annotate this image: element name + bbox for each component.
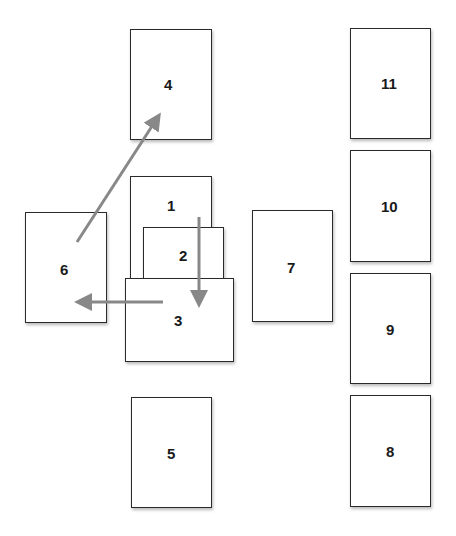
- card-9[interactable]: 9: [350, 273, 431, 384]
- card-3[interactable]: 3: [125, 278, 234, 362]
- card-label: 11: [381, 75, 397, 92]
- card-label: 8: [386, 443, 394, 460]
- card-label: 2: [179, 247, 187, 264]
- card-label: 7: [287, 259, 295, 276]
- card-6[interactable]: 6: [25, 212, 107, 323]
- card-label: 9: [386, 321, 394, 338]
- card-5[interactable]: 5: [131, 397, 212, 508]
- card-10[interactable]: 10: [350, 150, 431, 262]
- card-label: 3: [174, 312, 182, 329]
- card-label: 5: [167, 445, 175, 462]
- card-4[interactable]: 4: [130, 29, 212, 140]
- card-8[interactable]: 8: [350, 395, 431, 507]
- card-label: 4: [164, 76, 172, 93]
- card-7[interactable]: 7: [252, 210, 333, 322]
- card-label: 10: [381, 198, 398, 215]
- card-label: 1: [167, 197, 175, 214]
- card-11[interactable]: 11: [350, 28, 431, 139]
- card-label: 6: [60, 261, 68, 278]
